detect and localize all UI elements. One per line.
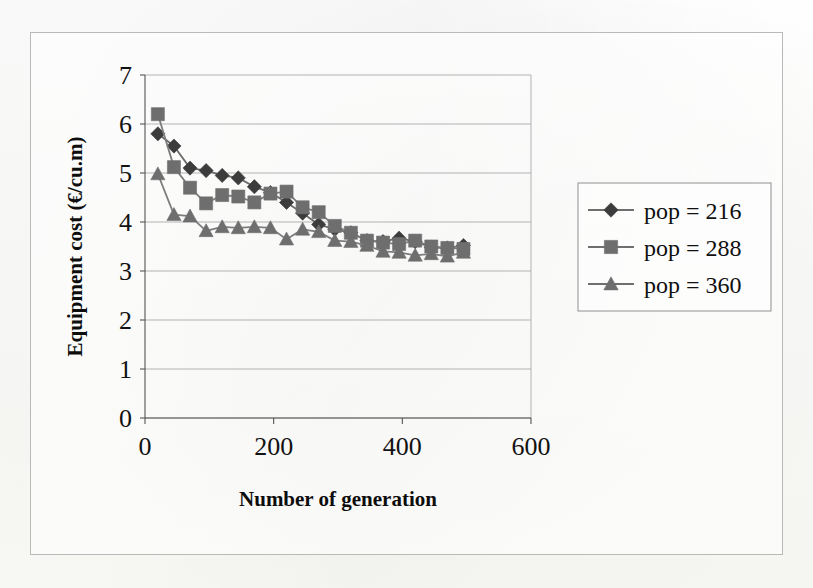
- data-point-marker-square: [312, 206, 325, 219]
- data-point-marker-triangle: [279, 232, 293, 245]
- data-point-marker-diamond: [247, 180, 261, 194]
- x-axis-title: Number of generation: [239, 487, 437, 511]
- data-point-marker-triangle: [296, 222, 310, 235]
- y-tick-label: 0: [119, 404, 132, 433]
- legend-label: pop = 360: [644, 272, 742, 298]
- data-point-marker-square: [167, 161, 180, 174]
- legend-group: pop = 216pop = 288pop = 360: [578, 183, 771, 311]
- data-point-marker-triangle: [167, 208, 181, 221]
- data-point-marker-square: [296, 201, 309, 214]
- data-point-marker-square: [216, 189, 229, 202]
- data-point-marker-diamond: [199, 163, 213, 177]
- y-tick-labels-group: 01234567: [119, 61, 132, 433]
- legend-marker-square: [604, 240, 617, 253]
- x-tick-label: 0: [139, 432, 152, 461]
- series-1: [151, 127, 471, 255]
- x-tick-label: 200: [254, 432, 293, 461]
- data-point-marker-square: [184, 181, 197, 194]
- data-point-marker-square: [248, 196, 261, 209]
- legend-label: pop = 288: [644, 235, 742, 261]
- axes-group: [140, 75, 531, 424]
- y-tick-label: 2: [119, 306, 132, 335]
- x-tick-labels-group: 0200400600: [139, 432, 551, 461]
- data-series-group: [151, 108, 471, 262]
- y-axis-title: Equipment cost (€/cu.m): [63, 137, 87, 357]
- data-point-marker-square: [409, 234, 422, 247]
- data-point-marker-square: [280, 185, 293, 198]
- x-tick-label: 400: [383, 432, 422, 461]
- legend-label: pop = 216: [644, 198, 742, 224]
- y-tick-label: 4: [119, 208, 132, 237]
- y-tick-label: 1: [119, 355, 132, 384]
- series-2: [151, 108, 470, 256]
- data-point-marker-square: [151, 108, 164, 121]
- y-tick-label: 7: [119, 61, 132, 90]
- y-tick-label: 5: [119, 159, 132, 188]
- x-tick-label: 600: [512, 432, 551, 461]
- data-point-marker-square: [232, 190, 245, 203]
- y-tick-label: 3: [119, 257, 132, 286]
- data-point-marker-square: [200, 197, 213, 210]
- series-3: [151, 167, 471, 262]
- data-point-marker-diamond: [215, 168, 229, 182]
- line-chart: 01234567 0200400600 Equipment cost (€/cu…: [0, 0, 813, 588]
- data-point-marker-square: [264, 187, 277, 200]
- data-point-marker-square: [328, 219, 341, 232]
- data-point-marker-triangle: [328, 234, 342, 247]
- y-tick-label: 6: [119, 110, 132, 139]
